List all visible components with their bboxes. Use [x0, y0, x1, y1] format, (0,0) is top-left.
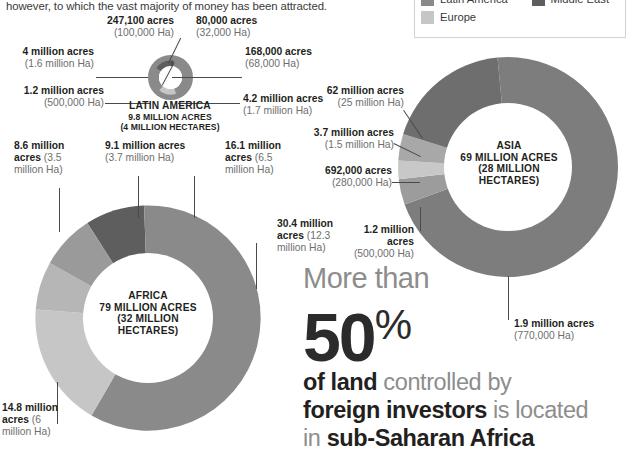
africa-leader-top	[138, 176, 139, 218]
la-label-low-left: 1.2 million acres (500,000 Ha)	[0, 85, 104, 109]
asia-leader-lower-left	[420, 207, 421, 231]
africa-right-ha2: million Ha)	[277, 242, 326, 253]
legend-item-europe[interactable]: Europe	[421, 11, 529, 24]
callout-line1: More than	[303, 262, 632, 294]
la-label-low-left-acres: 1.2 million acres	[24, 85, 104, 96]
callout-block: More than 50% of land controlled by fore…	[303, 262, 632, 452]
asia-low-left-acres: 692,000 acres	[325, 165, 392, 176]
legend-item-middle-east[interactable]: Middle East	[532, 0, 609, 6]
africa-right-a1: 30.4 million	[277, 218, 333, 229]
la-leader-right-mid	[172, 77, 242, 78]
africa-label-bottom-left: 14.8 million acres (6 million Ha)	[2, 402, 86, 439]
legend-box: Latin America Middle East Europe	[414, 0, 626, 38]
legend-label-latin-america: Latin America	[440, 0, 508, 6]
la-center-acres: 9.8 MILLION ACRES	[105, 112, 235, 122]
asia-center-hectares-1: (28 MILLION	[444, 163, 574, 175]
legend-row-1: Latin America Middle East	[421, 0, 619, 11]
latin-america-center-caption: LATIN AMERICA 9.8 MILLION ACRES (4 MILLI…	[105, 100, 235, 132]
asia-upper-left-acres: 62 million acres	[327, 85, 404, 96]
callout-line3: of land controlled by	[303, 368, 632, 396]
africa-left-upper-a2: acres	[14, 152, 41, 163]
africa-center-hectares-1: (32 MILLION	[83, 313, 213, 325]
africa-top-acres: 9.1 million acres	[105, 140, 185, 151]
asia-center-hectares-2: HECTARES)	[444, 175, 574, 187]
africa-center-hectares-2: HECTARES)	[83, 325, 213, 337]
africa-leader-right	[256, 243, 257, 289]
africa-right-a2: acres	[277, 230, 304, 241]
africa-leader-top-right	[194, 176, 195, 218]
la-label-mid-right-ha: (68,000 Ha)	[245, 58, 299, 69]
asia-label-mid-left: 3.7 million acres (1.5 million Ha)	[290, 127, 394, 151]
asia-center-acres: 69 MILLION ACRES	[444, 152, 574, 164]
africa-label-top: 9.1 million acres (3.7 million Ha)	[105, 140, 215, 164]
africa-right-ha1: (12.3	[307, 230, 330, 241]
infographic-canvas: however, to which the vast majority of m…	[0, 0, 632, 463]
la-label-mid-left: 4 million acres (1.6 million Ha)	[0, 46, 94, 70]
callout-line4-bold: foreign investors	[303, 397, 487, 423]
asia-center-caption: ASIA 69 MILLION ACRES (28 MILLION HECTAR…	[444, 140, 574, 186]
asia-mid-left-acres: 3.7 million acres	[314, 127, 394, 138]
callout-line5: in sub-Saharan Africa	[303, 424, 632, 452]
legend-row-2: Europe	[421, 11, 619, 29]
africa-bottom-left-ha2: million Ha)	[2, 426, 51, 437]
africa-left-upper-a1: 8.6 million	[14, 140, 64, 151]
la-label-top-right: 80,000 acres (32,000 Ha)	[196, 15, 306, 39]
callout-line3-rest: controlled by	[383, 369, 511, 395]
africa-center-acres: 79 MILLION ACRES	[83, 302, 213, 314]
la-label-mid-left-ha: (1.6 million Ha)	[25, 58, 94, 69]
la-label-mid-left-acres: 4 million acres	[22, 46, 94, 57]
africa-bottom-left-ha1: (6	[32, 414, 41, 425]
callout-number: 50	[303, 299, 375, 375]
africa-top-right-a1: 16.1 million	[225, 140, 281, 151]
africa-left-upper-ha1: (3.5	[44, 152, 62, 163]
la-center-region: LATIN AMERICA	[105, 100, 235, 112]
africa-leader-left-upper	[59, 188, 60, 232]
callout-line4-rest: is located	[493, 397, 588, 423]
intro-text: however, to which the vast majority of m…	[6, 0, 406, 13]
legend-label-europe: Europe	[440, 11, 476, 24]
africa-top-ha: (3.7 million Ha)	[105, 152, 174, 163]
asia-label-lower-left: 1.2 million acres (500,000 Ha)	[330, 224, 414, 261]
africa-bottom-left-a2: acres	[2, 414, 29, 425]
asia-upper-left-ha: (25 million Ha)	[338, 97, 404, 108]
callout-line5-pre: in	[303, 425, 321, 451]
callout-line3-bold: of land	[303, 369, 377, 395]
callout-number-line: 50%	[303, 294, 632, 368]
africa-bottom-left-a1: 14.8 million	[2, 402, 58, 413]
legend-swatch-latin-america	[421, 0, 434, 6]
la-label-top-left-acres: 247,100 acres	[107, 15, 174, 26]
asia-center-region: ASIA	[444, 140, 574, 152]
la-label-top-right-acres: 80,000 acres	[196, 15, 257, 26]
la-center-hectares: (4 MILLION HECTARES)	[105, 122, 235, 132]
asia-leader-low-left	[392, 182, 420, 183]
asia-lower-left-a1: 1.2 million	[364, 224, 414, 235]
asia-low-left-ha: (280,000 Ha)	[332, 177, 392, 188]
africa-top-right-ha2: million Ha)	[225, 164, 274, 175]
africa-left-upper-ha2: million Ha)	[14, 164, 63, 175]
legend-swatch-middle-east	[532, 0, 545, 6]
la-label-mid-right-acres: 168,000 acres	[245, 46, 312, 57]
la-label-top-right-ha: (32,000 Ha)	[196, 27, 250, 38]
africa-center-region: AFRICA	[83, 290, 213, 302]
asia-mid-left-ha: (1.5 million Ha)	[325, 139, 394, 150]
la-label-low-left-ha: (500,000 Ha)	[44, 97, 104, 108]
asia-lower-left-ha: (500,000 Ha)	[354, 248, 414, 259]
legend-swatch-europe	[421, 11, 434, 24]
legend-item-latin-america[interactable]: Latin America	[421, 0, 522, 6]
la-label-top-left-ha: (100,000 Ha)	[114, 27, 174, 38]
legend-label-middle-east: Middle East	[551, 0, 609, 6]
callout-line5-bold: sub-Saharan Africa	[327, 425, 534, 451]
africa-center-caption: AFRICA 79 MILLION ACRES (32 MILLION HECT…	[83, 290, 213, 336]
africa-top-right-a2: acres	[225, 152, 252, 163]
la-label-top-left: 247,100 acres (100,000 Ha)	[56, 15, 174, 39]
callout-percent: %	[375, 301, 411, 348]
callout-line4: foreign investors is located	[303, 396, 632, 424]
asia-lower-left-a2: acres	[387, 236, 414, 247]
la-label-mid-right: 168,000 acres (68,000 Ha)	[245, 46, 355, 70]
asia-label-low-left: 692,000 acres (280,000 Ha)	[296, 165, 392, 189]
asia-label-upper-left: 62 million acres (25 million Ha)	[300, 85, 404, 109]
la-leader-left-mid	[96, 77, 148, 78]
africa-label-left-upper: 8.6 million acres (3.5 million Ha)	[14, 140, 94, 177]
africa-top-right-ha1: (6.5	[255, 152, 273, 163]
